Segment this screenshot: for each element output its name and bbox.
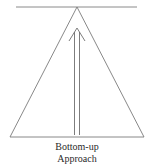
caption-line-2: Approach <box>0 153 148 165</box>
bottom-up-diagram: Bottom-up Approach <box>0 0 148 166</box>
diagram-caption: Bottom-up Approach <box>0 141 148 165</box>
triangle-outline <box>10 7 144 137</box>
up-arrow-icon <box>69 28 85 135</box>
caption-line-1: Bottom-up <box>0 141 148 153</box>
